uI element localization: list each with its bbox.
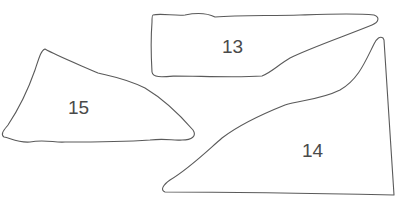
shape-13-label: 13 (222, 36, 243, 57)
shape-15: 15 (2, 49, 194, 142)
shape-15-label: 15 (68, 97, 89, 118)
shape-15-outline (2, 49, 194, 142)
shape-13-outline (151, 13, 378, 77)
shapes-diagram: 13 15 14 (0, 0, 395, 197)
shape-14-label: 14 (302, 140, 324, 161)
shape-14-outline (163, 37, 394, 195)
shape-14: 14 (163, 37, 394, 195)
shape-13: 13 (151, 13, 378, 77)
